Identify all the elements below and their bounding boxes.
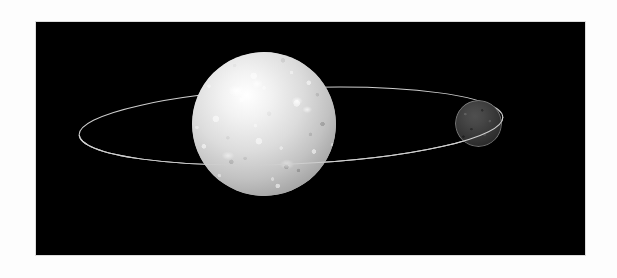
primary-body: [192, 52, 336, 196]
primary-body-limb-darkening: [192, 52, 336, 196]
scene-canvas: [0, 0, 617, 278]
secondary-body-limb-darkening: [455, 100, 502, 147]
secondary-body: [455, 100, 502, 147]
image-panel: [36, 22, 585, 255]
